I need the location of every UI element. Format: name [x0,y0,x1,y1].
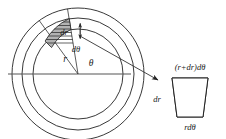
label-radius: r [63,54,67,64]
label-angle: θ [89,58,94,68]
label-outer-arc-length: (r+dr)dθ [175,62,206,72]
trapezoid-outline [172,78,208,117]
figure-canvas: r θ dr dθ (r+dr)dθ rdθ dr [0,0,226,139]
label-trapezoid-height: dr [153,94,161,104]
label-angular-width: dθ [72,44,80,54]
polar-area-element-figure: r θ dr dθ (r+dr)dθ rdθ dr [0,0,226,139]
label-radial-thickness: dr [60,27,68,37]
label-inner-arc-length: rdθ [184,122,195,132]
